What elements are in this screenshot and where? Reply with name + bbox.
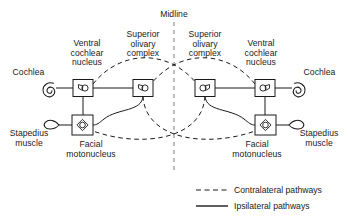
legend-label-ipsilateral: Ipsilateral pathways: [234, 201, 309, 211]
left-cochlea-icon: [43, 83, 55, 97]
node-right-facial-motonucleus: [255, 115, 276, 135]
label-right-superior-olivary-complex: Superior olivary complex: [179, 30, 231, 59]
label-right-stapedius-muscle: Stapedius muscle: [292, 129, 346, 148]
pathway-left-soc-to-fmn: [93, 96, 143, 125]
label-left-stapedius-muscle: Stapedius muscle: [2, 129, 56, 148]
label-right-cochlea: Cochlea: [297, 68, 342, 78]
label-left-cochlea: Cochlea: [6, 68, 51, 78]
pathway-right-soc-to-fmn: [205, 96, 255, 125]
label-right-facial-motonucleus: Facial motonucleus: [221, 140, 293, 159]
node-left-superior-olivary-complex: [133, 80, 153, 97]
legend-label-contralateral: Contralateral pathways: [234, 185, 322, 195]
label-left-facial-motonucleus: Facial motonucleus: [55, 140, 127, 159]
node-right-ventral-cochlear-nucleus: [255, 80, 275, 97]
pathway-right-soc-to-left-fmn: [93, 96, 205, 139]
acoustic-reflex-diagram: Midline Ventral cochlear nucleus Superio…: [0, 0, 348, 223]
label-left-ventral-cochlear-nucleus: Ventral cochlear nucleus: [58, 39, 116, 68]
node-left-ventral-cochlear-nucleus: [73, 80, 93, 97]
pathway-left-soc-to-right-fmn: [143, 96, 255, 139]
label-left-superior-olivary-complex: Superior olivary complex: [117, 30, 169, 59]
right-cochlea-icon: [293, 83, 305, 97]
node-right-superior-olivary-complex: [195, 80, 215, 97]
node-left-facial-motonucleus: [72, 115, 93, 135]
label-right-ventral-cochlear-nucleus: Ventral cochlear nucleus: [232, 39, 290, 68]
midline-label: Midline: [148, 10, 200, 20]
